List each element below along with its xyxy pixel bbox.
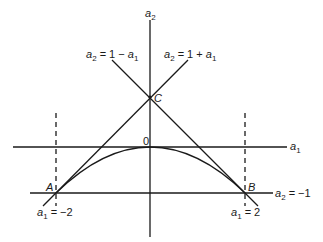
point-b-label: B	[248, 181, 255, 193]
diagram-canvas: a2 a2 = 1 − a1 a2 = 1 + a1 C 0 a1 A B a2…	[0, 0, 323, 242]
origin-label: 0	[143, 135, 149, 147]
horizontal-axis-label: a1	[290, 140, 301, 155]
bottom-line-label: a2 = −1	[275, 187, 311, 202]
left-dashed-label: a1 = −2	[37, 206, 73, 221]
vertical-axis-label: a2	[145, 7, 156, 22]
point-a-label: A	[45, 181, 53, 193]
right-diagonal-label: a2 = 1 + a1	[164, 48, 217, 63]
point-c-marker	[148, 95, 151, 98]
point-c-label: C	[154, 92, 162, 104]
right-dashed-label: a1 = 2	[231, 206, 260, 221]
